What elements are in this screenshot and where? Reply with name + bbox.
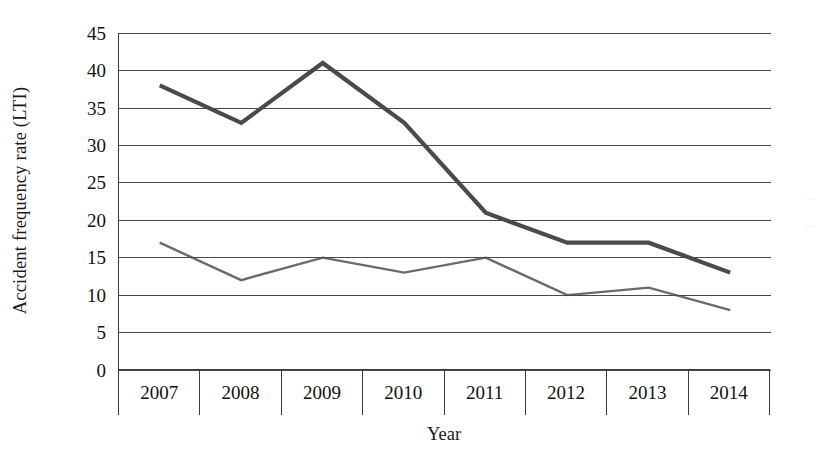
- y-tick-label: 25: [87, 173, 106, 192]
- y-tick-label: 35: [87, 98, 106, 117]
- x-axis-category-band: 20072008200920102011201220132014: [118, 369, 770, 415]
- series-line-lower-series: [160, 242, 731, 309]
- y-tick-label: 40: [87, 61, 106, 80]
- y-axis-title-label: Accident frequency rate (LTI): [11, 86, 32, 314]
- x-axis-category-cell: 2014: [689, 370, 770, 415]
- y-tick-label: 15: [87, 248, 106, 267]
- y-axis-tick-labels: 454035302520151050: [40, 0, 112, 400]
- gridline: [119, 295, 771, 296]
- gridline: [119, 33, 771, 34]
- plot-area: [118, 33, 771, 370]
- gridline: [119, 257, 771, 258]
- x-axis-category-cell: 2013: [607, 370, 688, 415]
- gridline: [119, 108, 771, 109]
- line-chart: Accident frequency rate (LTI) 4540353025…: [0, 0, 827, 476]
- y-axis-title: Accident frequency rate (LTI): [6, 0, 36, 400]
- gridline: [119, 332, 771, 333]
- x-axis-title: Year: [118, 424, 770, 445]
- scan-artifact-bottom: :-: [806, 222, 812, 230]
- x-axis-category-cell: 2009: [282, 370, 363, 415]
- gridline: [119, 145, 771, 146]
- y-tick-label: 20: [87, 210, 106, 229]
- scan-artifact-top: ···: [806, 196, 816, 204]
- y-tick-label: 30: [87, 136, 106, 155]
- y-tick-label: 5: [97, 323, 107, 342]
- x-axis-category-cell: 2007: [118, 370, 200, 415]
- y-tick-label: 0: [97, 360, 107, 379]
- x-axis-category-cell: 2008: [200, 370, 281, 415]
- gridline: [119, 70, 771, 71]
- gridline: [119, 220, 771, 221]
- x-axis-category-cell: 2011: [445, 370, 526, 415]
- gridline: [119, 182, 771, 183]
- y-tick-label: 45: [87, 23, 106, 42]
- x-axis-category-cell: 2010: [363, 370, 444, 415]
- x-axis-category-cell: 2012: [526, 370, 607, 415]
- series-layer: [119, 33, 771, 370]
- series-line-upper-series: [160, 63, 731, 273]
- y-tick-label: 10: [87, 285, 106, 304]
